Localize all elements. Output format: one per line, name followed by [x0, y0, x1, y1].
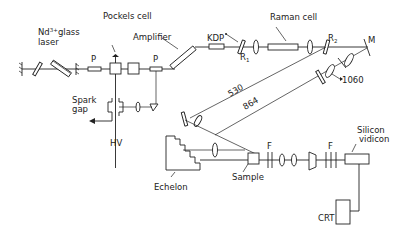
beam-864-label: 864 — [241, 95, 260, 112]
filter-1-label: F — [267, 141, 272, 151]
optical-setup-diagram: P Pockels cell P Amplifier Nd3+glass las… — [0, 0, 402, 233]
lens-icon — [213, 143, 218, 157]
beam-530-label: 530 — [226, 82, 245, 99]
lens-icon — [343, 52, 355, 67]
echelon-label: Echelon — [154, 182, 188, 192]
mirror-label: M — [368, 35, 375, 45]
polarizer-2-label: P — [153, 54, 158, 64]
filter-plate-icon — [316, 70, 326, 84]
arrow-icon — [112, 54, 119, 57]
crt-icon — [336, 200, 350, 224]
raman-cell-label: Raman cell — [270, 12, 317, 22]
lens-icon — [324, 63, 336, 78]
crt-label: CRT — [318, 213, 335, 223]
prism-icon — [150, 104, 158, 111]
rear-mirror-icon — [19, 62, 22, 76]
vidicon-label-2: vidicon — [359, 134, 389, 144]
nd-glass-rod-icon — [51, 60, 72, 77]
beam-530 — [190, 47, 326, 118]
pockels-cell-label: Pockels cell — [103, 11, 152, 21]
filter-2-label: F — [328, 141, 333, 151]
r1-label: R1 — [240, 52, 249, 63]
kdp-crystal-icon — [209, 44, 224, 49]
laser-label-line2: laser — [38, 37, 59, 47]
polarizer-1-icon — [88, 67, 101, 71]
spectrograph-icon — [309, 152, 316, 170]
sample-label: Sample — [232, 172, 264, 182]
pockels-cell-2-icon — [128, 63, 139, 74]
kdp-label: KDP — [207, 33, 224, 43]
lens-icon — [193, 115, 203, 128]
beam-1060-label: 1060 — [342, 75, 364, 85]
hv-label: HV — [110, 138, 122, 148]
lens-icon — [254, 40, 259, 54]
sample-icon — [248, 153, 259, 164]
amplifier-label: Amplifier — [133, 32, 172, 42]
pockels-cell-icon — [110, 63, 121, 74]
polarizer-2-icon — [150, 67, 162, 71]
raman-cell-icon — [268, 44, 298, 50]
arrow-left-icon — [89, 118, 95, 124]
amplifier-rod-icon — [170, 46, 196, 69]
lens-icon — [292, 154, 297, 166]
silicon-vidicon-icon — [345, 154, 369, 164]
lens-icon — [308, 40, 313, 54]
lens-icon — [136, 102, 140, 112]
laser-label-line1: Nd3+glass — [38, 27, 80, 37]
r2-label: R2 — [328, 33, 337, 44]
lens-icon — [280, 154, 285, 166]
polarizer-1-label: P — [91, 54, 96, 64]
spark-gap-label-2: gap — [72, 104, 88, 114]
raman-pointer — [276, 27, 286, 41]
mirror-plate-icon — [181, 112, 188, 126]
pockels-pointer — [112, 45, 115, 52]
echelon-icon — [166, 136, 200, 170]
